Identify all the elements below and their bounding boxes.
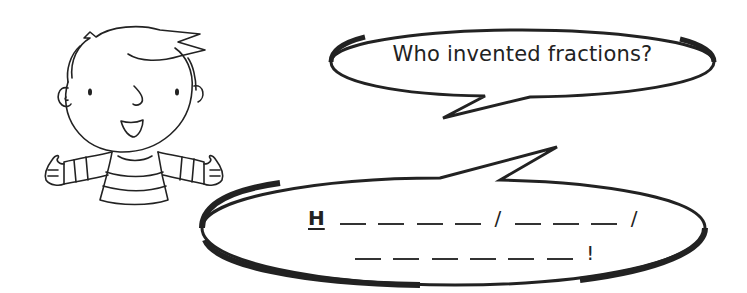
letter-blank[interactable] [470, 258, 496, 260]
exclamation-mark: ! [586, 241, 594, 265]
letter-blank[interactable] [547, 258, 573, 260]
letter-blank[interactable] [515, 223, 541, 225]
boy-character-icon [45, 27, 223, 205]
letter-blank[interactable] [355, 258, 381, 260]
answer-line-2: ! [352, 241, 598, 265]
letter-blank[interactable] [591, 223, 617, 225]
letter-blank[interactable] [393, 258, 419, 260]
letter-blank[interactable] [432, 258, 458, 260]
question-text: Who invented fractions? [331, 42, 714, 66]
letter-blank[interactable] [417, 223, 443, 225]
word-separator: / [631, 206, 638, 230]
letter-blank[interactable] [508, 258, 534, 260]
word-separator: / [495, 206, 502, 230]
letter-blank[interactable] [340, 223, 366, 225]
letter-blank[interactable] [455, 223, 481, 225]
answer-line-1: H / / [308, 206, 641, 230]
letter-blank[interactable] [378, 223, 404, 225]
given-letter: H [308, 206, 325, 230]
letter-blank[interactable] [553, 223, 579, 225]
